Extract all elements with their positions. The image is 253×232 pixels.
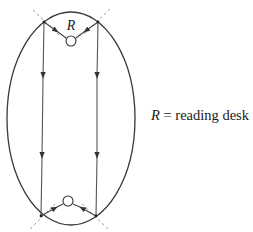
legend-equals: = <box>160 107 175 123</box>
legend-symbol: R <box>151 107 160 123</box>
reflection-points <box>40 21 100 218</box>
vertical-rays <box>41 22 98 216</box>
focus-bottom <box>63 196 73 206</box>
focus-label-r: R <box>66 18 76 33</box>
legend-text: reading desk <box>175 107 249 123</box>
legend-label: R = reading desk <box>151 107 249 124</box>
reading-desk-focus-top <box>66 36 76 46</box>
